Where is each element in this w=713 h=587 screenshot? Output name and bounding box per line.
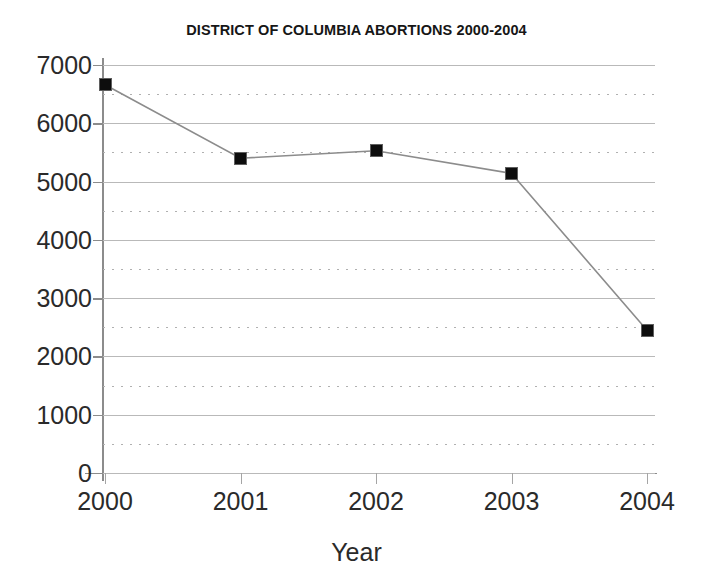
- x-axis-tick-label: 2000: [45, 489, 165, 514]
- x-axis-tick: [376, 473, 377, 484]
- y-axis-tick-label: 5000: [14, 169, 92, 194]
- y-axis-tick: [93, 240, 103, 241]
- x-axis-tick-label: 2002: [316, 489, 436, 514]
- y-axis-tick: [93, 415, 103, 416]
- y-axis-tick: [93, 123, 103, 124]
- data-point-marker: [234, 152, 247, 165]
- y-axis-tick-label: 0: [14, 461, 92, 486]
- y-axis-tick-label: 2000: [14, 344, 92, 369]
- data-point-marker: [505, 167, 518, 180]
- chart-container: DISTRICT OF COLUMBIA ABORTIONS 2000-2004…: [0, 0, 713, 587]
- data-point-marker: [99, 78, 112, 91]
- data-series-line: [103, 65, 655, 473]
- x-axis-tick: [512, 473, 513, 484]
- y-axis-tick: [93, 356, 103, 357]
- y-axis-tick-label: 1000: [14, 402, 92, 427]
- y-axis-tick: [93, 298, 103, 299]
- y-axis-tick: [93, 65, 103, 66]
- chart-title: DISTRICT OF COLUMBIA ABORTIONS 2000-2004: [0, 22, 713, 38]
- y-axis-tick: [93, 473, 103, 474]
- gridline-major: [103, 473, 655, 474]
- data-point-marker: [641, 324, 654, 337]
- series-polyline: [103, 65, 655, 473]
- data-point-marker: [370, 144, 383, 157]
- x-axis-title: Year: [0, 538, 713, 567]
- y-axis-tick-label: 7000: [14, 53, 92, 78]
- x-axis-tick: [241, 473, 242, 484]
- y-axis-tick-label: 6000: [14, 111, 92, 136]
- y-axis-tick-labels: 01000200030004000500060007000: [10, 65, 92, 473]
- x-axis-tick: [647, 473, 648, 484]
- x-axis-tick-label: 2004: [587, 489, 707, 514]
- x-axis-tick-label: 2003: [452, 489, 572, 514]
- x-axis-tick: [105, 473, 106, 484]
- y-axis-tick-label: 3000: [14, 286, 92, 311]
- plot-area: [103, 65, 655, 473]
- y-axis-tick: [93, 182, 103, 183]
- y-axis-tick-label: 4000: [14, 227, 92, 252]
- x-axis-tick-labels: 20002001200220032004: [103, 489, 655, 529]
- x-axis-tick-label: 2001: [181, 489, 301, 514]
